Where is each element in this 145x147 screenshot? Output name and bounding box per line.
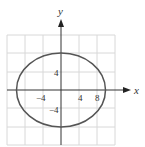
x-axis-arrow-icon <box>123 87 131 93</box>
y-tick-4: 4 <box>54 68 59 78</box>
y-tick-neg4: −4 <box>49 105 59 115</box>
x-tick-neg4: −4 <box>36 93 46 103</box>
x-tick-8: 8 <box>95 93 100 103</box>
y-axis-arrow-icon <box>58 19 64 27</box>
y-axis <box>58 19 64 145</box>
x-axis-label: x <box>133 84 139 96</box>
ellipse-chart: x y −4 4 8 4 −4 <box>0 0 145 147</box>
y-axis-label: y <box>57 5 63 17</box>
x-axis <box>7 87 131 93</box>
x-tick-4: 4 <box>78 93 83 103</box>
